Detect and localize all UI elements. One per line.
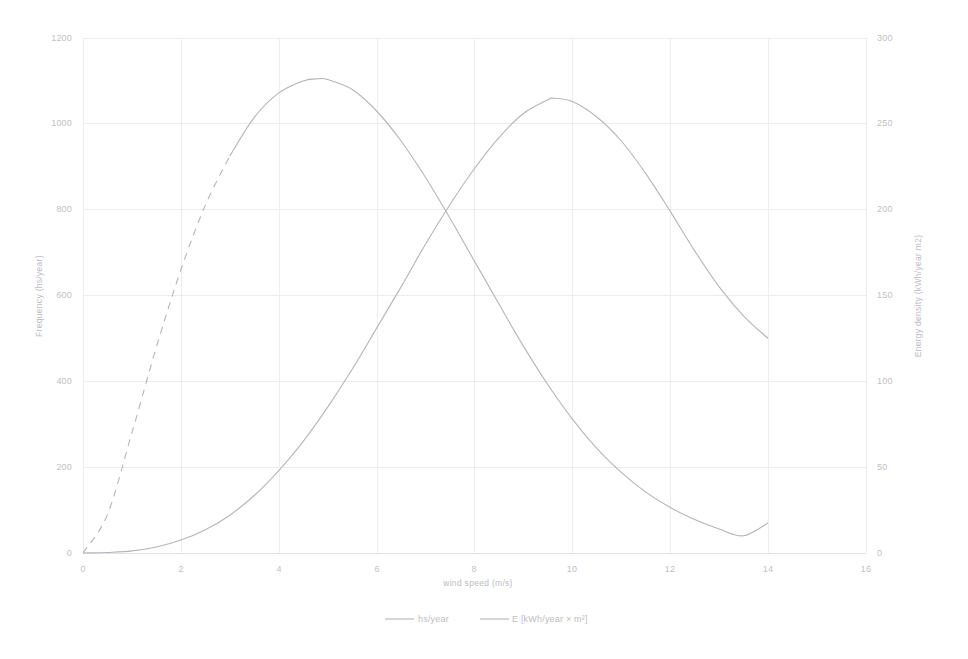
x-tick-label: 12 — [665, 564, 675, 574]
left-tick-label: 200 — [56, 462, 72, 472]
left-axis-title: Frequency (hs/year) — [34, 255, 44, 337]
right-tick-label: 0 — [877, 548, 882, 558]
wind-energy-chart: 1200 1000 800 600 400 200 0 300 250 200 … — [0, 0, 968, 659]
x-axis-tick-labels: 0 2 4 6 8 10 12 14 16 — [80, 564, 871, 574]
right-tick-label: 250 — [877, 118, 893, 128]
left-tick-label: 600 — [56, 290, 72, 300]
left-tick-label: 800 — [56, 204, 72, 214]
frequency-series-dashed-segment — [83, 156, 230, 553]
x-tick-label: 14 — [763, 564, 773, 574]
chart-svg: 1200 1000 800 600 400 200 0 300 250 200 … — [0, 0, 968, 659]
right-tick-label: 150 — [877, 290, 893, 300]
right-axis-title: Energy density (kWh/year m2) — [913, 235, 923, 358]
x-tick-label: 2 — [178, 564, 183, 574]
right-tick-label: 200 — [877, 204, 893, 214]
legend-label-energy: E [kWh/year × m²] — [512, 614, 588, 624]
right-axis-tick-labels: 300 250 200 150 100 50 0 — [877, 33, 893, 558]
left-axis-tick-labels: 1200 1000 800 600 400 200 0 — [51, 33, 72, 558]
right-tick-label: 50 — [877, 462, 887, 472]
energy-density-series — [83, 98, 768, 553]
left-tick-label: 400 — [56, 376, 72, 386]
x-tick-label: 4 — [276, 564, 281, 574]
x-tick-label: 16 — [861, 564, 871, 574]
x-axis-title: wind speed (m/s) — [442, 578, 513, 588]
left-tick-label: 1000 — [51, 118, 72, 128]
left-tick-label: 0 — [67, 548, 72, 558]
right-tick-label: 100 — [877, 376, 893, 386]
x-tick-label: 0 — [80, 564, 85, 574]
x-tick-label: 10 — [567, 564, 577, 574]
legend-label-frequency: hs/year — [418, 614, 449, 624]
chart-legend: hs/year E [kWh/year × m²] — [385, 614, 588, 624]
x-tick-label: 8 — [471, 564, 476, 574]
x-tick-label: 6 — [374, 564, 379, 574]
right-tick-label: 300 — [877, 33, 893, 43]
left-tick-label: 1200 — [51, 33, 72, 43]
